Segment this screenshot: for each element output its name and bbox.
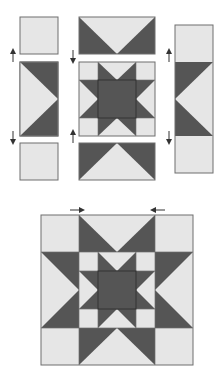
flying-geese-right bbox=[175, 62, 213, 136]
flying-geese-top bbox=[79, 17, 155, 54]
corner-square-bottom-right bbox=[175, 136, 213, 173]
left-column bbox=[20, 17, 58, 180]
right-column bbox=[175, 25, 213, 173]
flying-geese-left bbox=[20, 62, 58, 136]
finished-block bbox=[41, 215, 193, 365]
flying-geese-bottom bbox=[79, 143, 155, 180]
corner-square-bottom-left bbox=[20, 143, 58, 180]
quilt-assembly-diagram bbox=[0, 0, 222, 370]
corner-square-top-right bbox=[175, 25, 213, 62]
center-star-block bbox=[79, 62, 155, 136]
center-column bbox=[79, 17, 155, 180]
corner-square-top-left bbox=[20, 17, 58, 54]
